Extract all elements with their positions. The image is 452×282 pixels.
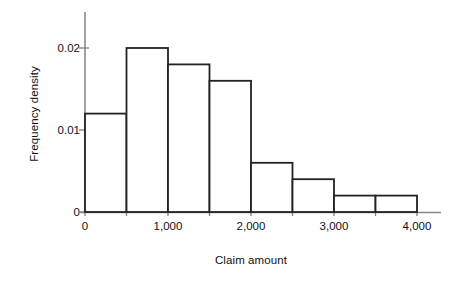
histogram-bar: [334, 196, 376, 212]
histogram-bar: [251, 163, 293, 212]
histogram-bar: [85, 114, 127, 212]
histogram-bars: [85, 48, 417, 212]
histogram-bar: [376, 196, 418, 212]
histogram-bar: [293, 179, 335, 212]
histogram-bar: [210, 81, 252, 212]
histogram-bar: [127, 48, 169, 212]
histogram-bar: [168, 64, 210, 212]
plot-area: [0, 0, 452, 282]
histogram-figure: Frequency density 0.02 0.01 0 0 1,000 2,…: [0, 0, 452, 282]
